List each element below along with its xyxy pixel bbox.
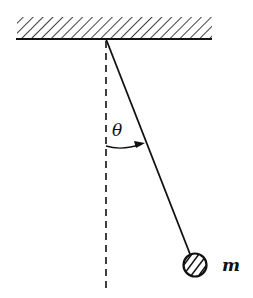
pendulum-diagram: θ m (0, 0, 253, 298)
pendulum-string (106, 39, 190, 254)
mass-label: m (222, 255, 240, 275)
pendulum-bob (180, 250, 211, 282)
ceiling-support (16, 17, 212, 39)
angle-arc (106, 141, 145, 148)
angle-label: θ (112, 120, 122, 140)
